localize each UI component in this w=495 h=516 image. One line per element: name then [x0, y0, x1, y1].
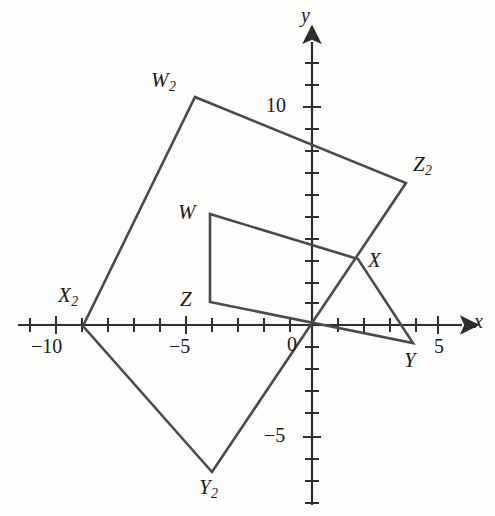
vertex-label-y: Y	[404, 350, 416, 371]
vertex-label-z2-subscript: 2	[425, 163, 432, 178]
vertex-label-z2: Z2	[413, 154, 432, 178]
vertex-label-x2: X2	[58, 285, 78, 309]
x-tick-label-neg5: −5	[169, 336, 190, 356]
vertex-label-z: Z	[180, 289, 192, 310]
vertex-label-x2-base: X	[58, 283, 71, 307]
y-tick-label-neg5: −5	[264, 425, 285, 445]
vertex-label-w2-subscript: 2	[169, 79, 176, 94]
vertex-label-w2: W2	[151, 70, 176, 94]
axes-group	[18, 42, 462, 505]
vertex-label-y2: Y2	[199, 477, 218, 501]
y-tick-label-pos10: 10	[266, 95, 286, 115]
diagram-canvas	[0, 0, 495, 516]
x-tick-label-pos5: 5	[434, 336, 444, 356]
vertex-label-w2-base: W	[151, 68, 169, 92]
x-tick-label-zero: 0	[287, 334, 297, 354]
coordinate-plane-figure: x y −10 −5 0 5 10 −5 W X Y Z W2 Z2 X2 Y2	[0, 0, 495, 516]
vertex-label-x: X	[368, 250, 381, 271]
vertex-label-y2-base: Y	[199, 475, 211, 499]
y-axis-label: y	[301, 5, 310, 25]
vertex-label-w: W	[178, 202, 196, 223]
vertex-label-x2-subscript: 2	[71, 294, 78, 309]
x-axis-label: x	[474, 311, 483, 331]
quadrilateral-w2x2y2z2	[83, 97, 406, 472]
vertex-label-y2-subscript: 2	[211, 486, 218, 501]
vertex-label-z2-base: Z	[413, 152, 425, 176]
x-tick-label-neg10: −10	[31, 336, 62, 356]
y-axis-ticks	[303, 63, 321, 503]
